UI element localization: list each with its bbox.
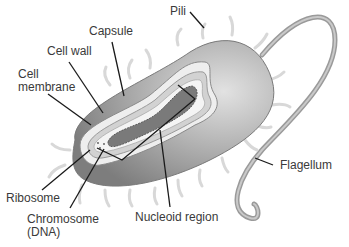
label-ribosome: Ribosome: [6, 192, 60, 205]
label-cell-membrane-2: membrane: [18, 81, 75, 94]
label-chromosome-2: (DNA): [27, 226, 60, 239]
label-capsule: Capsule: [89, 25, 133, 38]
label-cell-wall: Cell wall: [47, 45, 92, 58]
label-nucleoid-region: Nucleoid region: [135, 211, 218, 224]
label-pili: Pili: [170, 5, 186, 18]
label-flagellum: Flagellum: [280, 159, 332, 172]
